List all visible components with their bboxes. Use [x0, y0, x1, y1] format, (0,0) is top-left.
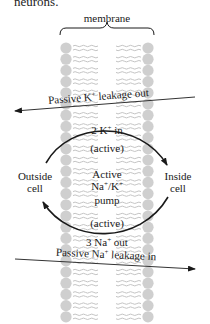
pump-center-line3: pump: [80, 194, 134, 206]
pump-center-line1: Active: [80, 168, 134, 180]
lipid-tail: [73, 269, 98, 270]
sodium-potassium-pump-diagram: neurons. membrane Passive K+ leakage out…: [0, 0, 210, 324]
k-symbol: /K: [108, 180, 119, 192]
lipid-tail: [73, 273, 98, 274]
lipid-head: [60, 266, 71, 277]
lipid-head: [142, 177, 153, 188]
lipid-tail: [116, 307, 141, 308]
lipid-head: [142, 188, 153, 199]
inside-cell-label: Inside cell: [158, 170, 198, 194]
lipid-head: [142, 266, 153, 277]
passive-na-prefix: Passive Na: [56, 246, 105, 260]
lipid-head: [142, 54, 153, 65]
lipid-head: [142, 110, 153, 121]
lipid-head: [142, 278, 153, 289]
lipid-head: [60, 199, 71, 210]
pump-top-ion-label: 2 K+ in: [80, 124, 134, 136]
lipid-tail: [73, 68, 98, 69]
lipid-tail: [116, 318, 141, 319]
lipid-head: [60, 121, 71, 132]
k-charge: +: [119, 180, 123, 188]
lipid-tail: [116, 296, 141, 297]
lipid-head: [60, 177, 71, 188]
lipid-head: [142, 222, 153, 233]
lipid-tail: [73, 49, 98, 50]
lipid-tail: [73, 213, 98, 214]
lipid-head: [142, 65, 153, 76]
lipid-tail: [73, 157, 98, 158]
lipid-tail: [116, 72, 141, 73]
lipid-head: [142, 300, 153, 311]
lipid-head: [60, 278, 71, 289]
lipid-tail: [116, 161, 141, 162]
lipid-tail: [116, 303, 141, 304]
lipid-tail: [116, 213, 141, 214]
lipid-head: [60, 289, 71, 300]
lipid-head: [142, 166, 153, 177]
lipid-tail: [116, 105, 141, 106]
lipid-tail: [73, 318, 98, 319]
passive-na-leakage-arrow: [15, 259, 195, 269]
lipid-head: [142, 154, 153, 165]
outside-line2: cell: [14, 182, 56, 194]
lipid-tail: [116, 206, 141, 207]
lipid-tail: [73, 303, 98, 304]
lipid-tail: [116, 292, 141, 293]
lipid-tail: [116, 49, 141, 50]
pump-bottom-mode-label: (active): [80, 217, 134, 229]
lipid-head: [60, 110, 71, 121]
lipid-tail: [116, 45, 141, 46]
lipid-tail: [73, 79, 98, 80]
lipid-tail: [116, 157, 141, 158]
lipid-head: [60, 311, 71, 322]
lipid-tail: [116, 61, 141, 62]
lipid-tail: [116, 113, 141, 114]
membrane-label: membrane: [80, 12, 134, 24]
inside-line1: Inside: [158, 170, 198, 182]
na-symbol: Na: [91, 180, 104, 192]
lipid-head: [142, 311, 153, 322]
lipid-tail: [116, 281, 141, 282]
lipid-tail: [116, 79, 141, 80]
lipid-tail: [73, 83, 98, 84]
lipid-tail: [116, 314, 141, 315]
lipid-head: [60, 154, 71, 165]
lipid-tail: [116, 269, 141, 270]
diagram-graphics: [0, 0, 210, 324]
lipid-head: [142, 121, 153, 132]
lipid-tail: [73, 72, 98, 73]
lipid-tail: [73, 45, 98, 46]
lipid-tail: [73, 314, 98, 315]
lipid-tail: [73, 292, 98, 293]
lipid-tail: [73, 61, 98, 62]
lipid-head: [60, 76, 71, 87]
pump-center-line2: Na+/K+: [76, 180, 138, 192]
lipid-tail: [116, 68, 141, 69]
lipid-tail: [116, 285, 141, 286]
lipid-tail: [116, 273, 141, 274]
bottom-ion-suffix: out: [111, 236, 128, 248]
lipid-tail: [73, 113, 98, 114]
lipid-head: [60, 65, 71, 76]
outside-cell-label: Outside cell: [14, 170, 56, 194]
top-ion-suffix: in: [111, 124, 122, 136]
lipid-tail: [116, 83, 141, 84]
pump-top-mode-label: (active): [80, 142, 134, 154]
lipid-tail: [116, 117, 141, 118]
passive-na-suffix: leakage in: [108, 248, 156, 262]
lipid-head: [142, 42, 153, 53]
bottom-ion-prefix: 3 Na: [86, 236, 107, 248]
lipid-tail: [73, 161, 98, 162]
lipid-head: [142, 233, 153, 244]
lipid-tail: [73, 57, 98, 58]
lipid-tail: [73, 139, 98, 140]
lipid-head: [142, 289, 153, 300]
outside-line1: Outside: [14, 170, 56, 182]
lipid-head: [60, 54, 71, 65]
lipid-head: [60, 188, 71, 199]
lipid-head: [60, 166, 71, 177]
lipid-tail: [73, 117, 98, 118]
lipid-tail: [73, 307, 98, 308]
lipid-head: [60, 233, 71, 244]
lipid-tail: [73, 206, 98, 207]
